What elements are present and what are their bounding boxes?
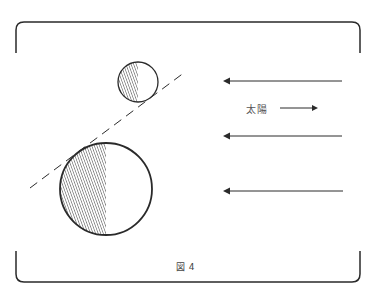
figure-caption: 図 4 bbox=[176, 260, 195, 273]
frame-top-bracket bbox=[16, 22, 360, 53]
arrowhead-left-icon bbox=[223, 188, 230, 195]
large-circle bbox=[60, 143, 152, 235]
arrowhead-left-icon bbox=[223, 133, 230, 140]
diagram-canvas bbox=[0, 0, 376, 303]
ray-arrow-2 bbox=[223, 133, 342, 140]
small-circle bbox=[118, 62, 158, 102]
ray-arrow-3 bbox=[223, 188, 343, 195]
arrowhead-left-icon bbox=[223, 78, 230, 85]
sun-label: 太陽 bbox=[246, 101, 267, 116]
sun-direction-arrow bbox=[280, 105, 318, 111]
arrowhead-right-icon bbox=[312, 105, 318, 111]
ray-arrow-1 bbox=[223, 78, 342, 85]
